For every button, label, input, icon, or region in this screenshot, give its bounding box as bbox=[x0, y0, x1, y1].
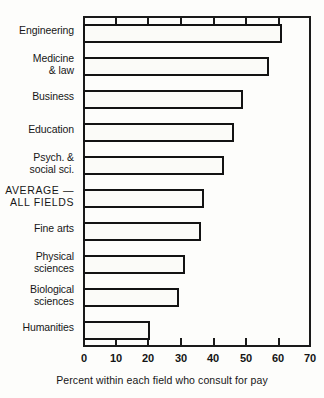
bar-education bbox=[83, 123, 234, 142]
xtick-label-60: 60 bbox=[272, 352, 284, 364]
category-label-education: Education bbox=[28, 124, 74, 136]
xtick-label-50: 50 bbox=[240, 352, 252, 364]
category-label-engineering: Engineering bbox=[19, 25, 74, 37]
category-label-humanities: Humanities bbox=[22, 322, 74, 334]
category-label-fine-arts: Fine arts bbox=[34, 223, 74, 235]
bars-layer bbox=[83, 16, 311, 347]
bar-average-all-fields bbox=[83, 189, 204, 208]
xtick-label-20: 20 bbox=[142, 352, 154, 364]
category-label-physical-sciences: Physical sciences bbox=[34, 251, 74, 274]
x-axis-title: Percent within each field who consult fo… bbox=[0, 374, 324, 386]
category-label-biological-sciences: Biological sciences bbox=[30, 284, 74, 307]
category-label-average-all-fields: AVERAGE — ALL FIELDS bbox=[5, 185, 74, 208]
bar-engineering bbox=[83, 24, 282, 43]
x-axis-tick-labels: 0 10 20 30 40 50 60 70 bbox=[0, 352, 324, 368]
category-label-column: Engineering Medicine & law Business Educ… bbox=[0, 14, 78, 347]
bar-business bbox=[83, 90, 243, 109]
xtick-label-40: 40 bbox=[207, 352, 219, 364]
bar-physical-sciences bbox=[83, 255, 185, 274]
xtick-label-10: 10 bbox=[110, 352, 122, 364]
bar-chart: Engineering Medicine & law Business Educ… bbox=[0, 0, 324, 398]
bar-medicine-law bbox=[83, 57, 269, 76]
bar-psych-social-sci bbox=[83, 156, 224, 175]
xtick-label-30: 30 bbox=[175, 352, 187, 364]
xtick-label-70: 70 bbox=[304, 352, 316, 364]
category-label-business: Business bbox=[32, 91, 74, 103]
bar-fine-arts bbox=[83, 222, 201, 241]
bar-biological-sciences bbox=[83, 288, 179, 307]
category-label-medicine-law: Medicine & law bbox=[33, 53, 74, 76]
bar-humanities bbox=[83, 321, 150, 340]
xtick-label-0: 0 bbox=[81, 352, 87, 364]
category-label-psych-social-sci: Psych. & social sci. bbox=[30, 152, 74, 175]
